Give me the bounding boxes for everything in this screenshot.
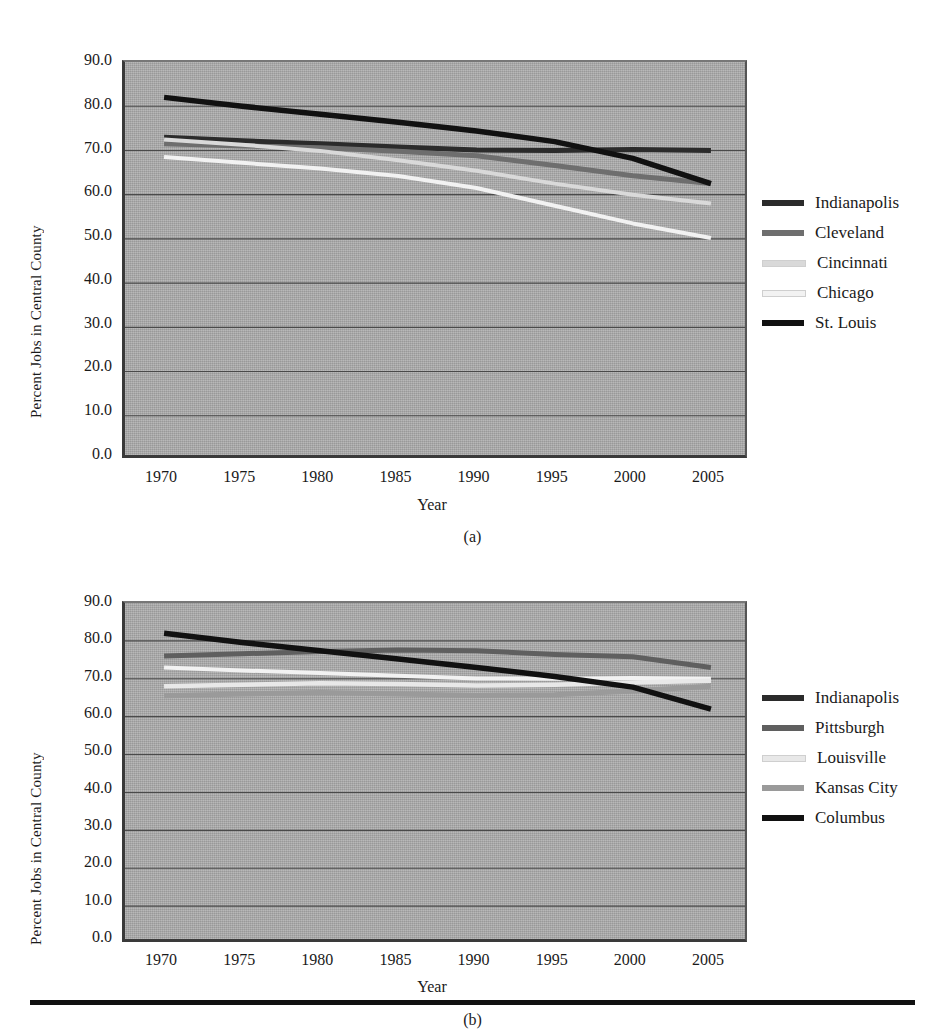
x-tick-a-7: 2005 [678, 466, 738, 488]
legend-swatch-b-2 [762, 755, 806, 762]
x-tick-b-1: 1975 [209, 949, 269, 971]
y-tick-a-7: 20.0 [52, 358, 112, 374]
legend-label-a-0: Indianapolis [815, 188, 899, 218]
series-line-a-chicago [164, 157, 711, 238]
legend-label-a-3: Chicago [817, 278, 874, 308]
y-axis-tick-labels-b: 90.080.070.060.050.040.030.020.010.00.0 [52, 593, 112, 945]
x-tick-b-7: 2005 [678, 949, 738, 971]
y-tick-b-7: 20.0 [52, 854, 112, 870]
legend-item-b-louisville: Louisville [762, 743, 899, 773]
legend-item-a-indianapolis: Indianapolis [762, 188, 899, 218]
x-tick-b-5: 1995 [522, 949, 582, 971]
legend-label-b-2: Louisville [817, 743, 886, 773]
x-tick-b-4: 1990 [444, 949, 504, 971]
legend-item-b-indianapolis: Indianapolis [762, 683, 899, 713]
legend-swatch-b-1 [762, 725, 804, 731]
legend-swatch-a-3 [762, 290, 806, 297]
y-tick-a-5: 40.0 [52, 271, 112, 287]
legend-item-b-columbus: Columbus [762, 803, 899, 833]
y-axis-label-a: Percent Jobs in Central County [28, 118, 45, 418]
y-tick-a-3: 60.0 [52, 183, 112, 199]
legend-swatch-a-0 [762, 200, 804, 206]
legend-label-b-4: Columbus [815, 803, 885, 833]
x-tick-a-0: 1970 [131, 466, 191, 488]
y-tick-b-3: 60.0 [52, 705, 112, 721]
caption-b: (b) [0, 1011, 945, 1029]
plot-area-a [122, 60, 747, 458]
plot-area-b [122, 601, 747, 942]
legend-item-a-chicago: Chicago [762, 278, 899, 308]
x-tick-a-5: 1995 [522, 466, 582, 488]
y-tick-b-0: 90.0 [52, 593, 112, 609]
x-tick-a-2: 1980 [287, 466, 347, 488]
legend-label-b-0: Indianapolis [815, 683, 899, 713]
y-tick-a-1: 80.0 [52, 96, 112, 112]
legend-item-a-cleveland: Cleveland [762, 218, 899, 248]
series-line-b-indianapolis [164, 667, 711, 678]
x-axis-label-a: Year [112, 496, 752, 514]
y-tick-a-4: 50.0 [52, 227, 112, 243]
y-tick-b-2: 70.0 [52, 668, 112, 684]
y-tick-b-9: 0.0 [52, 929, 112, 945]
x-tick-a-6: 2000 [600, 466, 660, 488]
legend-swatch-b-0 [762, 695, 804, 701]
y-tick-b-5: 40.0 [52, 780, 112, 796]
x-tick-a-4: 1990 [444, 466, 504, 488]
x-tick-b-3: 1985 [365, 949, 425, 971]
legend-swatch-b-3 [762, 785, 804, 791]
y-tick-b-1: 80.0 [52, 630, 112, 646]
legend-swatch-b-4 [762, 815, 804, 821]
y-axis-label-b: Percent Jobs in Central County [28, 665, 45, 945]
legend-b: IndianapolisPittsburghLouisvilleKansas C… [762, 683, 899, 833]
chart-panel-a: Percent Jobs in Central County 90.080.07… [0, 0, 945, 570]
y-tick-b-8: 10.0 [52, 892, 112, 908]
legend-swatch-a-2 [762, 260, 806, 267]
legend-item-b-kansas-city: Kansas City [762, 773, 899, 803]
chart-panel-b: Percent Jobs in Central County 90.080.07… [0, 545, 945, 1000]
legend-label-a-1: Cleveland [815, 218, 884, 248]
x-tick-b-6: 2000 [600, 949, 660, 971]
bottom-rule [30, 1000, 915, 1005]
x-tick-a-3: 1985 [365, 466, 425, 488]
legend-item-a-cincinnati: Cincinnati [762, 248, 899, 278]
y-tick-a-8: 10.0 [52, 402, 112, 418]
x-axis-tick-labels-a: 19701975198019851990199520002005 [122, 466, 747, 488]
y-tick-a-6: 30.0 [52, 315, 112, 331]
legend-label-b-3: Kansas City [815, 773, 898, 803]
y-tick-a-9: 0.0 [52, 446, 112, 462]
legend-item-a-st-louis: St. Louis [762, 308, 899, 338]
legend-swatch-a-1 [762, 230, 804, 236]
y-axis-tick-labels-a: 90.080.070.060.050.040.030.020.010.00.0 [52, 52, 112, 462]
y-tick-a-2: 70.0 [52, 140, 112, 156]
x-axis-label-b: Year [112, 978, 752, 996]
x-axis-tick-labels-b: 19701975198019851990199520002005 [122, 949, 747, 971]
caption-a: (a) [0, 528, 945, 546]
x-tick-a-1: 1975 [209, 466, 269, 488]
legend-a: IndianapolisClevelandCincinnatiChicagoSt… [762, 188, 899, 338]
y-tick-a-0: 90.0 [52, 52, 112, 68]
legend-label-b-1: Pittsburgh [815, 713, 885, 743]
y-tick-b-4: 50.0 [52, 742, 112, 758]
legend-item-b-pittsburgh: Pittsburgh [762, 713, 899, 743]
x-tick-b-2: 1980 [287, 949, 347, 971]
legend-label-a-4: St. Louis [815, 308, 876, 338]
legend-label-a-2: Cincinnati [817, 248, 888, 278]
y-tick-b-6: 30.0 [52, 817, 112, 833]
legend-swatch-a-4 [762, 320, 804, 326]
x-tick-b-0: 1970 [131, 949, 191, 971]
